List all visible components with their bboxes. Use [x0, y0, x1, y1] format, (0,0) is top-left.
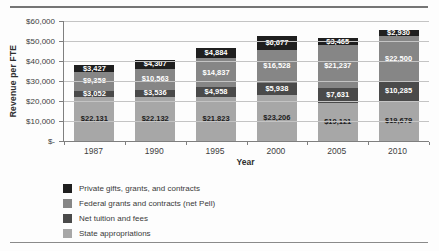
- x-tick-label: 2010: [367, 146, 428, 156]
- y-axis-labels: $60,000$50,000$40,000$30,000$20,000$10,0…: [0, 21, 55, 151]
- segment-value-label: $22,131: [81, 115, 108, 123]
- legend-swatch: [63, 229, 72, 238]
- y-tick-label: $20,000: [0, 97, 55, 106]
- segment: $10,285: [379, 81, 419, 102]
- segment-value-label: $5,938: [265, 85, 288, 93]
- plot-area: $22,131$3,052$9,358$3,427$22,132$3,536$1…: [63, 21, 429, 142]
- segment: $4,958: [196, 87, 236, 97]
- x-tick-label: 1990: [124, 146, 185, 156]
- gridline: [64, 21, 429, 22]
- y-tick-label: $10,000: [0, 117, 55, 126]
- x-axis-labels: 198719901995200020052010: [63, 146, 428, 156]
- y-tick-label: $40,000: [0, 57, 55, 66]
- segment: $6,677: [257, 36, 297, 49]
- gridline: [64, 101, 429, 102]
- y-tick-label: $50,000: [0, 37, 55, 46]
- x-tick-label: 2005: [306, 146, 367, 156]
- bar-1995: $21,823$4,958$14,837$4,884: [196, 48, 236, 141]
- bar-2000: $23,206$5,938$16,528$6,677: [257, 36, 297, 141]
- gridline: [64, 61, 429, 62]
- x-tick-mark: [64, 142, 65, 145]
- legend-item-label: State appropriations: [79, 229, 151, 238]
- y-tick-mark: [59, 61, 63, 62]
- legend-swatch: [63, 184, 72, 193]
- y-tick-mark: [59, 121, 63, 122]
- segment-value-label: $21,237: [324, 62, 351, 70]
- legend: Private gifts, grants, and contractsFede…: [63, 181, 215, 241]
- y-tick-mark: [59, 141, 63, 142]
- bar-2005: $19,121$7,631$21,237$3,465: [318, 38, 358, 141]
- segment-value-label: $10,563: [142, 75, 169, 83]
- segment-value-label: $10,285: [385, 87, 412, 95]
- x-tick-mark: [247, 142, 248, 145]
- segment: $21,823: [196, 97, 236, 141]
- y-tick-mark: [59, 101, 63, 102]
- x-tick-label: 1995: [185, 146, 246, 156]
- segment: $5,938: [257, 83, 297, 95]
- y-tick-label: $60,000: [0, 17, 55, 26]
- legend-swatch: [63, 199, 72, 208]
- segment-value-label: $16,528: [263, 62, 290, 70]
- segment-value-label: $21,823: [203, 115, 230, 123]
- x-tick-mark: [429, 142, 430, 145]
- segment-value-label: $4,958: [205, 88, 228, 96]
- gridline: [64, 41, 429, 42]
- segment: $10,563: [135, 69, 175, 90]
- x-tick-mark: [186, 142, 187, 145]
- legend-item-label: Net tuition and fees: [79, 214, 148, 223]
- segment-value-label: $14,837: [203, 69, 230, 77]
- segment: $22,500: [379, 36, 419, 81]
- y-tick-label: $30,000: [0, 77, 55, 86]
- segment: $3,536: [135, 90, 175, 97]
- segment-value-label: $19,121: [324, 118, 351, 126]
- x-tick-label: 1987: [63, 146, 124, 156]
- y-tick-mark: [59, 41, 63, 42]
- y-tick-label: $-: [0, 137, 55, 146]
- x-tick-label: 2000: [245, 146, 306, 156]
- segment: $23,206: [257, 95, 297, 141]
- segment: $14,837: [196, 58, 236, 88]
- x-tick-mark: [368, 142, 369, 145]
- x-tick-mark: [307, 142, 308, 145]
- segment: $3,427: [74, 65, 114, 72]
- segment: $22,132: [135, 97, 175, 141]
- legend-item: Private gifts, grants, and contracts: [63, 181, 215, 196]
- segment: $22,131: [74, 97, 114, 141]
- segment: $16,528: [257, 50, 297, 83]
- legend-item: Federal grants and contracts (net Pell): [63, 196, 215, 211]
- segment: $4,884: [196, 48, 236, 58]
- bar-2010: $19,679$10,285$22,500$2,930: [379, 30, 419, 141]
- revenue-per-fte-figure: Revenue per FTE $60,000$50,000$40,000$30…: [0, 0, 439, 251]
- segment-value-label: $4,884: [205, 49, 228, 57]
- segment: $19,121: [318, 103, 358, 141]
- segment-value-label: $7,631: [326, 91, 349, 99]
- x-axis-title: Year: [63, 157, 428, 167]
- gridline: [64, 121, 429, 122]
- top-rule: [10, 6, 428, 8]
- legend-item-label: Private gifts, grants, and contracts: [79, 184, 200, 193]
- x-tick-mark: [125, 142, 126, 145]
- segment: $3,465: [318, 38, 358, 45]
- y-tick-mark: [59, 21, 63, 22]
- segment-value-label: $22,132: [142, 115, 169, 123]
- legend-item: Net tuition and fees: [63, 211, 215, 226]
- legend-item-label: Federal grants and contracts (net Pell): [79, 199, 215, 208]
- bar-1987: $22,131$3,052$9,358$3,427: [74, 65, 114, 141]
- legend-swatch: [63, 214, 72, 223]
- bottom-rule: [10, 242, 428, 243]
- gridline: [64, 81, 429, 82]
- legend-item: State appropriations: [63, 226, 215, 241]
- y-tick-mark: [59, 81, 63, 82]
